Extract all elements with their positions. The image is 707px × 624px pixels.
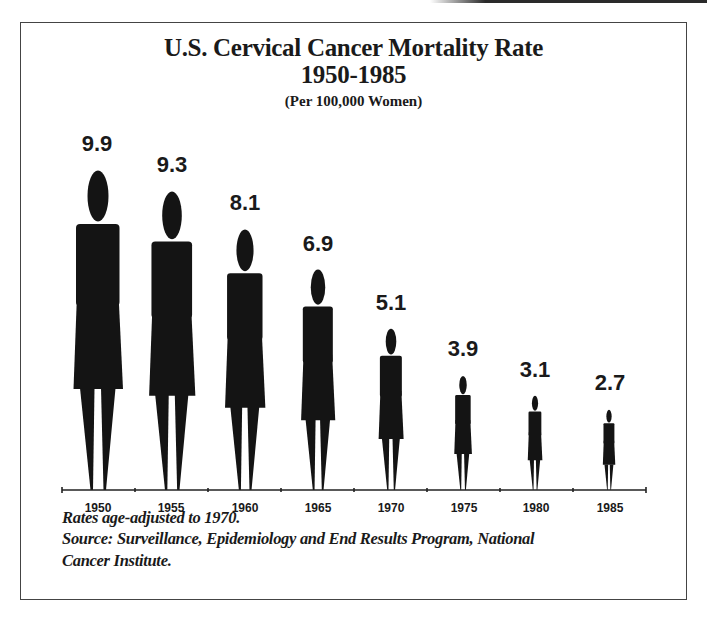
value-label-1975: 3.9 [448,336,479,361]
footnote-source-cont: Cancer Institute. [62,551,172,571]
value-label-1965: 6.9 [303,231,334,256]
figure-1960 [225,230,265,490]
figure-1980 [528,396,543,490]
figure-1965 [301,270,335,490]
x-axis [62,487,646,493]
value-label-1950: 9.9 [82,131,113,156]
figure-1970 [379,329,404,490]
figure-1950 [74,171,124,491]
value-label-1985: 2.7 [595,370,626,395]
value-label-1955: 9.3 [157,152,188,177]
figure-1985 [603,410,615,490]
x-label-1980: 1980 [523,501,550,515]
figure-1955 [149,192,195,490]
footnote-source: Source: Surveillance, Epidemiology and E… [62,529,534,549]
value-label-1960: 8.1 [230,190,261,215]
value-label-1970: 5.1 [376,290,407,315]
x-label-1965: 1965 [305,501,332,515]
figure-group [74,171,616,491]
x-label-1975: 1975 [451,501,478,515]
figure-1975 [454,376,472,490]
x-label-1985: 1985 [597,501,624,515]
footnote-age-adjusted: Rates age-adjusted to 1970. [62,508,240,528]
x-label-1970: 1970 [378,501,405,515]
value-label-1980: 3.1 [520,357,551,382]
